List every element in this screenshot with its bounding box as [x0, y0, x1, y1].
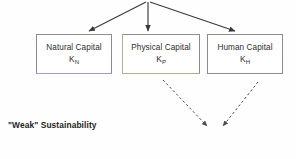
natural-capital-box: Natural Capital KN	[36, 34, 112, 74]
arrow-layer	[0, 0, 296, 159]
human-capital-symbol-base: K	[240, 54, 246, 64]
natural-capital-title: Natural Capital	[46, 43, 101, 54]
physical-capital-symbol: KP	[156, 54, 166, 65]
physical-capital-title: Physical Capital	[131, 43, 191, 54]
arrow-to-natural-capital	[89, 2, 146, 31]
diagram-canvas: Natural Capital KN Physical Capital KP H…	[0, 0, 296, 159]
physical-capital-symbol-subscript: P	[162, 58, 166, 65]
natural-capital-symbol: KN	[69, 54, 79, 65]
arrow-to-human-capital	[150, 2, 235, 31]
physical-capital-box: Physical Capital KP	[122, 34, 200, 74]
dashed-arrow-from-human-capital	[223, 82, 258, 126]
dashed-arrow-from-physical-capital	[163, 80, 207, 126]
human-capital-title: Human Capital	[217, 43, 272, 54]
natural-capital-symbol-subscript: N	[75, 58, 79, 65]
natural-capital-symbol-base: K	[69, 54, 75, 64]
human-capital-symbol: KH	[240, 54, 250, 65]
physical-capital-symbol-base: K	[156, 54, 162, 64]
human-capital-box: Human Capital KH	[207, 34, 283, 74]
sustainability-label: "Weak" Sustainability	[8, 120, 97, 130]
human-capital-symbol-subscript: H	[246, 58, 250, 65]
